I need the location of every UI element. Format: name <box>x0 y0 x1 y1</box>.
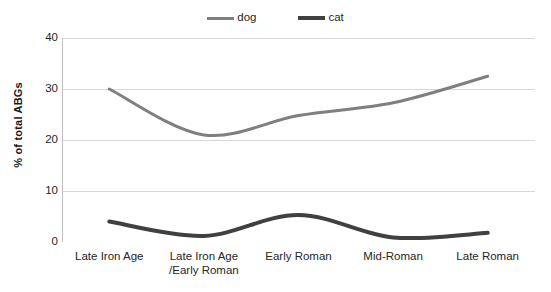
y-axis-title: % of total ABGs <box>7 0 29 250</box>
plot-area <box>62 38 535 242</box>
series-line-dog <box>109 76 487 135</box>
plot-svg <box>62 38 535 242</box>
y-axis-tick-labels: 403020100 <box>28 0 58 292</box>
x-axis-tick-labels: Late Iron AgeLate Iron Age/Early RomanEa… <box>62 249 535 291</box>
y-axis-tick-label: 30 <box>45 83 58 95</box>
x-axis-tick-label: Early Roman <box>251 249 346 291</box>
y-axis-tick-label: 0 <box>52 236 58 248</box>
y-axis-tick-label: 20 <box>45 134 58 146</box>
legend-item-cat: cat <box>298 12 343 24</box>
x-axis-tick-label: Late Iron Age <box>62 249 157 291</box>
legend-item-dog: dog <box>207 12 256 24</box>
legend-label-dog: dog <box>237 12 256 24</box>
series-line-cat <box>109 215 487 238</box>
legend-swatch-cat-icon <box>298 16 325 20</box>
x-axis-tick-label: Late Iron Age/Early Roman <box>157 249 252 291</box>
line-chart: dog cat % of total ABGs 403020100 Late I… <box>0 0 551 292</box>
legend-swatch-dog-icon <box>207 17 234 20</box>
y-axis-title-text: % of total ABGs <box>12 82 24 168</box>
y-axis-tick-label: 40 <box>45 32 58 44</box>
x-axis-tick-label: Mid-Roman <box>346 249 441 291</box>
y-axis-tick-label: 10 <box>45 185 58 197</box>
legend-label-cat: cat <box>328 12 343 24</box>
x-axis-tick-label: Late Roman <box>440 249 535 291</box>
chart-legend: dog cat <box>0 8 551 28</box>
